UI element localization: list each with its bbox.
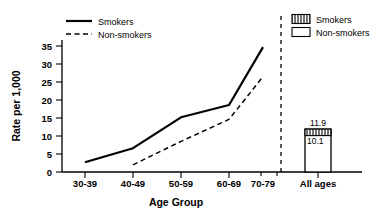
bar-label-smokers: 11.9 (310, 118, 326, 128)
y-tick-label-30: 30 (41, 59, 52, 70)
y-tick-label-15: 15 (41, 113, 52, 124)
y-axis-ticks (56, 46, 62, 172)
legend-box-non-smokers-swatch (292, 28, 310, 37)
x-tick-label-70-79: 70-79 (251, 178, 275, 189)
legend-line-smokers-label: Smokers (98, 17, 134, 27)
legend-box-smokers-swatch (292, 15, 310, 24)
x-tick-label-60-69: 60-69 (217, 178, 241, 189)
x-tick-label-50-59: 50-59 (169, 178, 193, 189)
legend-boxes: Smokers Non-smokers (292, 15, 370, 39)
y-axis-title: Rate per 1,000 (10, 70, 22, 141)
x-axis-title: Age Group (149, 196, 203, 208)
x-tick-label-40-49: 40-49 (121, 178, 145, 189)
y-tick-label-20: 20 (41, 95, 52, 106)
legend-line-non-smokers-label: Non-smokers (98, 30, 152, 40)
y-tick-label-0: 0 (47, 167, 52, 178)
all-ages-bars: 11.9 10.1 (305, 118, 331, 172)
y-tick-label-35: 35 (41, 41, 52, 52)
legend-lines: Smokers Non-smokers (66, 17, 152, 40)
legend-box-smokers-label: Smokers (316, 15, 352, 25)
x-tick-label-all-ages: All ages (300, 178, 336, 189)
y-tick-label-10: 10 (41, 131, 52, 142)
x-tick-label-30-39: 30-39 (73, 178, 97, 189)
bar-label-non-smokers: 10.1 (307, 136, 324, 146)
series-line-non-smokers (133, 77, 263, 165)
chart-figure: 35 30 25 20 15 10 5 0 Rate per 1,000 30-… (0, 0, 389, 217)
y-tick-label-25: 25 (41, 77, 52, 88)
y-tick-label-5: 5 (47, 149, 53, 160)
legend-box-non-smokers-label: Non-smokers (316, 28, 370, 38)
chart-svg: 35 30 25 20 15 10 5 0 Rate per 1,000 30-… (0, 0, 389, 217)
